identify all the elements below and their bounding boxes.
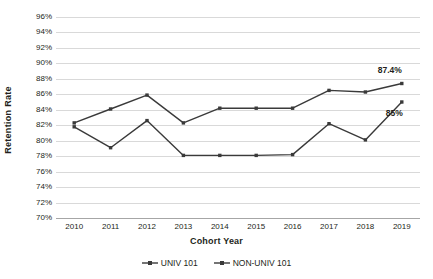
series-marker <box>400 100 403 103</box>
legend-item[interactable]: NON-UNIV 101 <box>214 258 292 268</box>
series-marker <box>255 107 258 110</box>
series-marker <box>364 90 367 93</box>
series-marker <box>291 107 294 110</box>
data-point-label: 87.4% <box>378 66 402 75</box>
series-line <box>74 102 402 155</box>
series-marker <box>291 153 294 156</box>
x-axis-title: Cohort Year <box>0 236 433 246</box>
series-marker <box>255 154 258 157</box>
series-marker <box>73 121 76 124</box>
chart-legend: UNIV 101NON-UNIV 101 <box>0 258 433 268</box>
legend-item[interactable]: UNIV 101 <box>142 258 198 268</box>
legend-marker-icon <box>142 259 158 267</box>
series-marker <box>145 93 148 96</box>
series-marker <box>109 146 112 149</box>
series-marker <box>182 154 185 157</box>
data-point-label: 85% <box>386 109 403 118</box>
series-marker <box>400 82 403 85</box>
series-marker <box>109 107 112 110</box>
retention-rate-line-chart: Retention Rate 96%94%92%90%88%86%84%82%8… <box>0 0 433 279</box>
legend-marker-icon <box>214 259 230 267</box>
series-marker <box>145 119 148 122</box>
series-marker <box>218 154 221 157</box>
series-marker <box>73 125 76 128</box>
series-marker <box>182 121 185 124</box>
series-marker <box>364 138 367 141</box>
legend-label: UNIV 101 <box>161 258 198 268</box>
series-marker <box>218 107 221 110</box>
legend-label: NON-UNIV 101 <box>233 258 292 268</box>
series-marker <box>327 89 330 92</box>
series-marker <box>327 122 330 125</box>
series-line <box>74 84 402 123</box>
